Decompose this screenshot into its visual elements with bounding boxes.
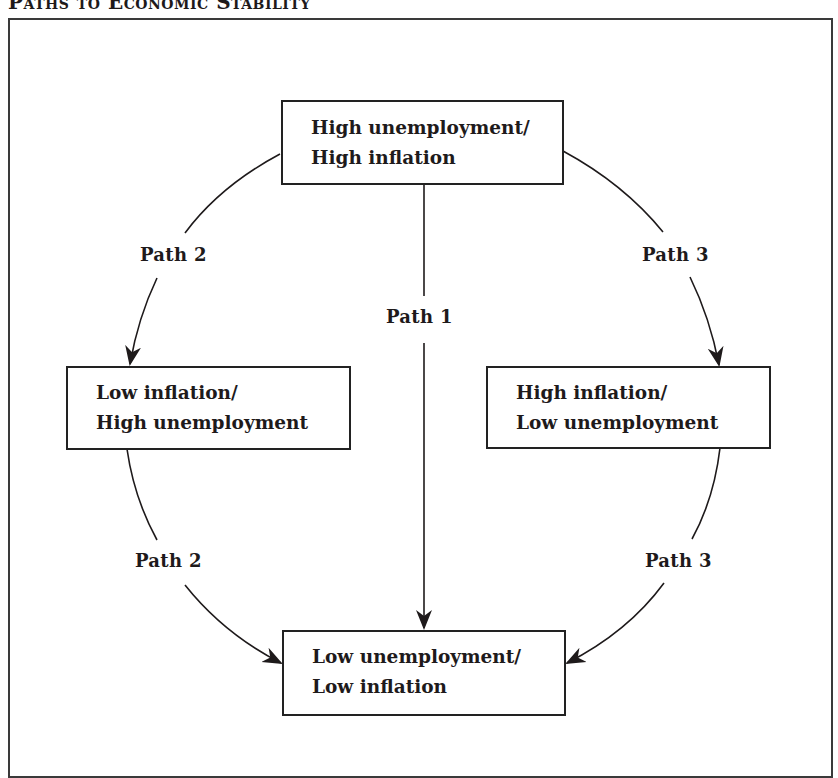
label-path-1: Path 1 (386, 306, 453, 327)
box-right-line2: Low unemployment (516, 408, 769, 438)
label-path-2-upper: Path 2 (140, 244, 207, 265)
box-bottom-line2: Low inflation (312, 672, 564, 702)
box-high-unemployment-high-inflation: High unemployment/ High inflation (281, 100, 564, 185)
box-right-line1: High inflation/ (516, 378, 769, 408)
box-low-inflation-high-unemployment: Low inflation/ High unemployment (66, 366, 351, 450)
box-top-line1: High unemployment/ (311, 113, 562, 143)
box-left-line1: Low inflation/ (96, 378, 349, 408)
box-high-inflation-low-unemployment: High inflation/ Low unemployment (486, 366, 771, 449)
box-left-line2: High unemployment (96, 408, 349, 438)
path2-upper-arc-a (185, 154, 280, 233)
path2-lower-arc-b (185, 585, 281, 663)
path3-lower-arc-a (692, 448, 720, 539)
path3-lower-arc-b (567, 583, 664, 663)
path2-upper-arc-b (130, 278, 157, 364)
path3-upper-arc-b (690, 277, 719, 365)
path3-upper-arc-a (563, 151, 663, 232)
box-top-line2: High inflation (311, 143, 562, 173)
path2-lower-arc-a (127, 449, 157, 540)
box-bottom-line1: Low unemployment/ (312, 642, 564, 672)
label-path-3-upper: Path 3 (642, 244, 709, 265)
label-path-3-lower: Path 3 (645, 550, 712, 571)
box-low-unemployment-low-inflation: Low unemployment/ Low inflation (282, 630, 566, 716)
label-path-2-lower: Path 2 (135, 550, 202, 571)
